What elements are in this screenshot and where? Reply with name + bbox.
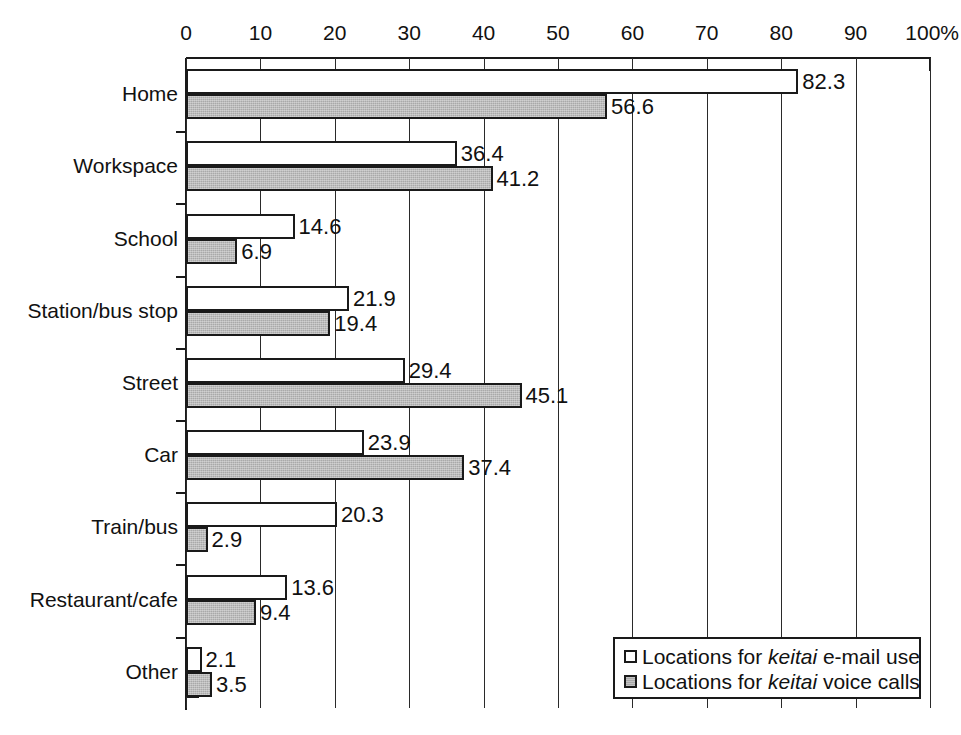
category-label-4: Street <box>0 372 178 393</box>
category-label-5: Car <box>0 444 178 465</box>
category-tick-6 <box>176 492 186 494</box>
bar-value-voice-2: 6.9 <box>241 241 272 263</box>
gridline-80 <box>781 58 782 708</box>
bar-voice-3 <box>186 311 330 336</box>
x-tick-label-40: 40 <box>472 22 495 43</box>
bar-voice-2 <box>186 239 237 264</box>
category-tick-3 <box>176 276 186 278</box>
bar-email-7 <box>186 575 287 600</box>
bar-email-2 <box>186 214 295 239</box>
bar-value-voice-7: 9.4 <box>260 602 291 624</box>
category-label-2: School <box>0 228 178 249</box>
category-tick-4 <box>176 348 186 350</box>
category-label-3: Station/bus stop <box>0 300 178 321</box>
legend-label-voice: Locations for keitai voice calls <box>642 671 920 692</box>
bar-email-8 <box>186 647 202 672</box>
category-label-0: Home <box>0 83 178 104</box>
legend-swatch-email-icon <box>624 650 637 663</box>
gridline-90 <box>856 58 857 708</box>
bar-chart: 0102030405060708090100% HomeWorkspaceSch… <box>0 0 961 735</box>
bar-email-0 <box>186 69 798 94</box>
category-label-7: Restaurant/cafe <box>0 589 178 610</box>
legend-item-email: Locations for keitai e-mail use <box>624 644 911 669</box>
bar-voice-6 <box>186 527 208 552</box>
bar-value-email-0: 82.3 <box>802 71 845 93</box>
category-tick-7 <box>176 564 186 566</box>
bar-value-voice-6: 2.9 <box>212 529 243 551</box>
category-tick-5 <box>176 420 186 422</box>
gridline-100 <box>930 58 931 708</box>
bar-value-email-7: 13.6 <box>291 577 334 599</box>
bar-email-5 <box>186 430 364 455</box>
bar-voice-0 <box>186 94 607 119</box>
bar-value-email-3: 21.9 <box>353 288 396 310</box>
x-tick-label-90: 90 <box>844 22 867 43</box>
bar-value-voice-0: 56.6 <box>611 96 654 118</box>
legend-swatch-voice-icon <box>624 675 637 688</box>
legend-item-voice: Locations for keitai voice calls <box>624 669 911 694</box>
x-tick-label-20: 20 <box>323 22 346 43</box>
bar-value-voice-8: 3.5 <box>216 674 247 696</box>
bar-voice-1 <box>186 166 493 191</box>
category-tick-8 <box>176 637 186 639</box>
bar-email-3 <box>186 286 349 311</box>
bar-voice-5 <box>186 455 464 480</box>
bar-value-voice-1: 41.2 <box>497 168 540 190</box>
bar-voice-4 <box>186 383 522 408</box>
x-tick-label-60: 60 <box>621 22 644 43</box>
category-tick-1 <box>176 131 186 133</box>
x-tick-label-50: 50 <box>546 22 569 43</box>
bar-value-voice-3: 19.4 <box>334 313 377 335</box>
legend-label-email: Locations for keitai e-mail use <box>642 646 920 667</box>
x-tick-label-10: 10 <box>249 22 272 43</box>
bar-value-email-1: 36.4 <box>461 143 504 165</box>
bar-value-voice-5: 37.4 <box>468 457 511 479</box>
bar-value-email-2: 14.6 <box>299 216 342 238</box>
x-tick-label-70: 70 <box>695 22 718 43</box>
x-tick-label-80: 80 <box>770 22 793 43</box>
bar-value-voice-4: 45.1 <box>526 385 569 407</box>
legend: Locations for keitai e-mail use Location… <box>613 637 921 699</box>
bar-value-email-8: 2.1 <box>206 649 237 671</box>
x-tick-label-0: 0 <box>180 22 192 43</box>
bar-voice-8 <box>186 672 212 697</box>
category-label-8: Other <box>0 661 178 682</box>
bar-email-1 <box>186 141 457 166</box>
gridline-60 <box>632 58 633 708</box>
bar-value-email-4: 29.4 <box>409 360 452 382</box>
category-tick-2 <box>176 203 186 205</box>
bar-email-6 <box>186 502 337 527</box>
category-label-6: Train/bus <box>0 516 178 537</box>
x-tick-label-100: 100% <box>905 22 959 43</box>
bar-email-4 <box>186 358 405 383</box>
bar-value-email-5: 23.9 <box>368 432 411 454</box>
gridline-70 <box>707 58 708 708</box>
x-tick-label-30: 30 <box>398 22 421 43</box>
bar-voice-7 <box>186 600 256 625</box>
category-label-1: Workspace <box>0 155 178 176</box>
bar-value-email-6: 20.3 <box>341 504 384 526</box>
